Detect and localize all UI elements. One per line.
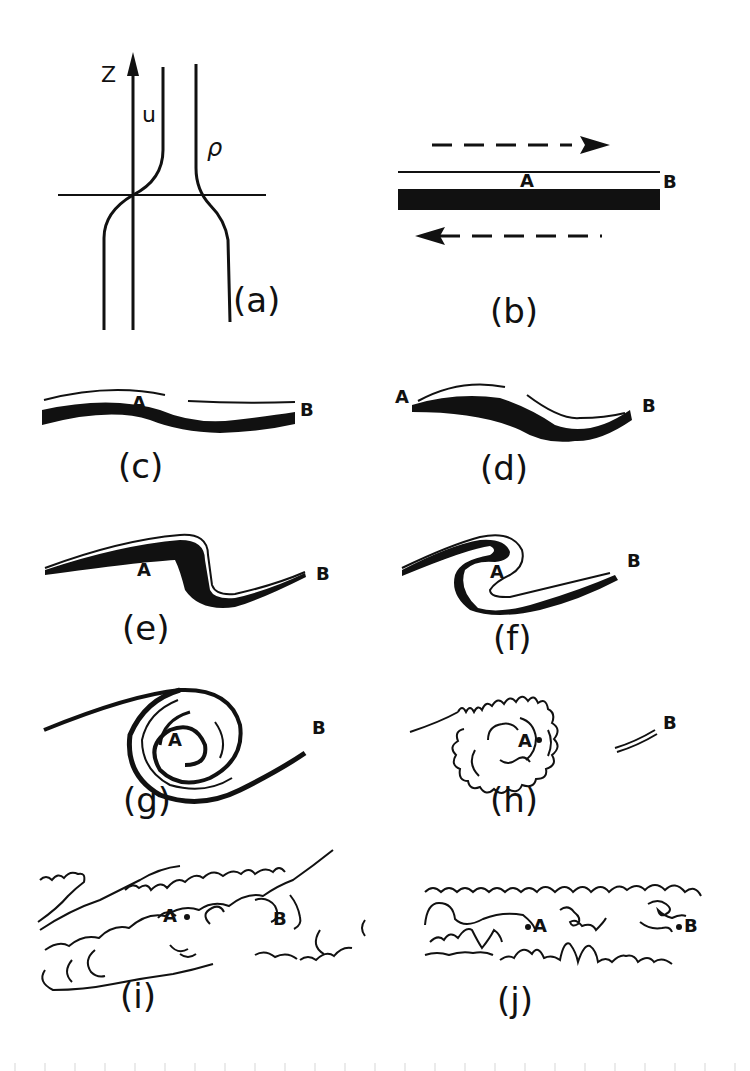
point-b-c: B [300, 399, 314, 420]
point-b-dot-j [676, 924, 682, 930]
point-b-b: B [663, 171, 677, 192]
panel-e [45, 535, 306, 610]
point-b-i: B [273, 908, 287, 929]
point-a-d: A [395, 386, 409, 407]
point-a-c: A [132, 392, 146, 413]
panel-label-i: (i) [120, 976, 156, 1016]
point-a-f: A [490, 561, 504, 582]
point-a-dot-h [536, 737, 542, 743]
point-a-dot-i [184, 914, 190, 920]
panel-f [402, 535, 618, 615]
panel-label-e: (e) [122, 608, 169, 648]
point-a-g: A [168, 729, 182, 750]
point-b-g: B [312, 717, 326, 738]
panel-label-c: (c) [118, 446, 163, 486]
density-profile-rho [196, 64, 230, 322]
u-label: u [142, 102, 156, 127]
panel-label-h: (h) [490, 780, 538, 820]
panel-d [412, 384, 632, 441]
panel-j [425, 885, 701, 964]
z-axis-label: Z [101, 62, 116, 87]
point-a-h: A [518, 730, 532, 751]
arrow-right-icon [580, 136, 610, 154]
point-a-i: A [163, 905, 177, 926]
figure-canvas: Z u ρ (a) A B (b) A B (c) A B (d) A B (e… [0, 0, 750, 1071]
point-b-e: B [316, 563, 330, 584]
panel-c [42, 390, 295, 433]
point-b-j: B [684, 915, 698, 936]
rho-label: ρ [207, 134, 222, 162]
panel-label-a: (a) [233, 280, 280, 320]
point-a-e: A [137, 559, 151, 580]
point-a-dot-j [525, 924, 531, 930]
panel-label-b: (b) [490, 291, 538, 331]
dense-layer-bar [398, 189, 660, 210]
panel-label-f: (f) [493, 618, 532, 658]
panel-label-g: (g) [123, 780, 171, 820]
panel-label-d: (d) [480, 448, 528, 488]
z-axis-arrow-icon [127, 52, 139, 76]
panel-h [410, 697, 657, 793]
panel-i [38, 850, 365, 990]
point-a-j: A [533, 915, 547, 936]
point-b-f: B [627, 550, 641, 571]
point-b-h: B [663, 712, 677, 733]
panel-label-j: (j) [497, 980, 533, 1020]
cropped-caption-remnant [0, 1063, 750, 1071]
point-a-b: A [520, 170, 534, 191]
point-b-d: B [642, 395, 656, 416]
